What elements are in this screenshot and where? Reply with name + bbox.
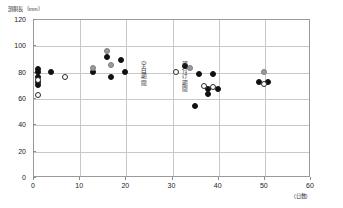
gridline-vertical [173,20,174,176]
data-point-open-white [35,92,41,98]
data-point-filled-black [35,82,41,88]
x-tick-mark [33,177,34,180]
y-tick-mark [33,151,36,152]
data-point-filled-black [210,71,216,77]
data-point-gray [90,65,96,71]
x-tick-label: 30 [160,182,184,189]
data-point-gray [261,69,267,75]
data-point-filled-black [192,103,198,109]
plot-area [33,19,310,177]
data-point-filled-black [104,54,110,60]
x-tick-label: 50 [252,182,276,189]
gridline-horizontal [34,125,309,126]
x-axis-unit-label: (日数) [294,192,307,199]
y-tick-label: 20 [0,147,26,154]
data-point-filled-black [122,69,128,75]
data-point-filled-black [196,71,202,77]
data-point-filled-black [48,69,54,75]
x-tick-mark [310,177,311,180]
data-point-filled-black [118,57,124,63]
data-point-gray [104,48,110,54]
annotation-blank-period: 空 白 期 間 [140,61,147,86]
x-tick-mark [79,177,80,180]
y-tick-mark [33,124,36,125]
data-point-open-white [210,84,216,90]
gridline-vertical [126,20,127,176]
y-tick-mark [33,45,36,46]
data-point-open-white [173,69,179,75]
gridline-horizontal [34,46,309,47]
data-point-filled-black [108,74,114,80]
x-tick-label: 0 [21,182,45,189]
y-tick-label: 120 [0,16,26,23]
data-point-open-white [62,74,68,80]
x-tick-mark [264,177,265,180]
data-point-open-white [201,83,207,89]
x-tick-mark [218,177,219,180]
data-point-open-white [261,81,267,87]
data-point-gray [108,62,114,68]
gridline-vertical [219,20,220,176]
gridline-horizontal [34,152,309,153]
x-tick-mark [125,177,126,180]
scatter-chart: 頭胴長（mm） 0204060801001200102030405060 空 白… [0,0,343,208]
gridline-horizontal [34,73,309,74]
annotation-parent-attached-period: 親 付 け 期 間 [182,61,189,92]
y-tick-label: 40 [0,121,26,128]
x-tick-label: 60 [298,182,322,189]
gridline-vertical [80,20,81,176]
x-tick-label: 20 [113,182,137,189]
data-point-open-white [35,77,41,83]
gridline-vertical [265,20,266,176]
data-point-filled-black [205,91,211,97]
x-tick-label: 10 [67,182,91,189]
y-tick-mark [33,19,36,20]
y-tick-label: 60 [0,95,26,102]
y-tick-label: 80 [0,68,26,75]
gridline-horizontal [34,99,309,100]
x-tick-label: 40 [206,182,230,189]
y-tick-label: 100 [0,42,26,49]
y-tick-label: 0 [0,174,26,181]
x-tick-mark [172,177,173,180]
y-axis-title: 頭胴長（mm） [8,5,43,12]
